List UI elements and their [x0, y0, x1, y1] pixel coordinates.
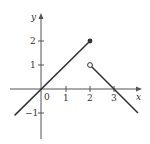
piecewise-function-graph: y x 0 1 2 3 1 2 −1: [0, 0, 150, 144]
open-endpoint-marker: [88, 63, 93, 68]
x-axis-label: x: [136, 92, 141, 102]
x-tick-label-1: 1: [63, 93, 69, 103]
segment-1-line: [15, 41, 90, 115]
graph-canvas: y x 0 1 2 3 1 2 −1: [0, 0, 150, 144]
y-axis-arrow-icon: [39, 13, 44, 19]
y-tick-label-2: 2: [30, 36, 36, 46]
y-tick-label-1: 1: [30, 60, 36, 70]
filled-endpoint-marker: [88, 39, 93, 44]
x-tick-label-3: 3: [111, 93, 117, 103]
segment-2-line: [92, 67, 138, 113]
y-axis-label: y: [30, 12, 37, 22]
origin-label: 0: [44, 92, 50, 102]
x-tick-label-2: 2: [87, 93, 93, 103]
y-tick-label-neg1: −1: [25, 108, 38, 118]
x-axis-arrow-icon: [136, 87, 142, 92]
